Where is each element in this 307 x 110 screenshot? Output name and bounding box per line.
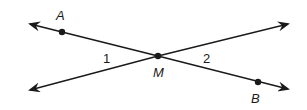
- angle-2-label: 2: [203, 51, 210, 66]
- line-second-left: [30, 56, 158, 90]
- point-a: [59, 29, 65, 35]
- label-b: B: [251, 91, 260, 106]
- angle-1-label: 1: [103, 51, 110, 66]
- label-a: A: [55, 8, 65, 23]
- line-amb-right: [158, 56, 288, 89]
- point-b: [255, 79, 261, 85]
- line-amb: [30, 24, 158, 56]
- diagram-canvas: A M B 1 2: [0, 0, 307, 110]
- label-m: M: [153, 65, 164, 80]
- point-m: [155, 53, 161, 59]
- line-second-right: [158, 24, 288, 56]
